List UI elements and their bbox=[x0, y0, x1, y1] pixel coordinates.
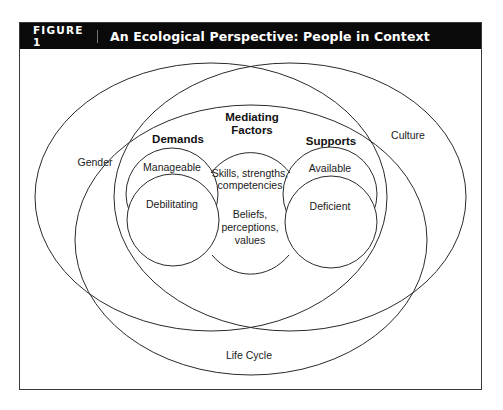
ecological-diagram: Gender Culture Life Cycle Demands Mediat… bbox=[0, 0, 503, 410]
beliefs-label-line1: Beliefs, bbox=[233, 208, 267, 220]
debilitating-label: Debilitating bbox=[146, 198, 198, 210]
mediating-heading-line1: Mediating bbox=[225, 111, 279, 123]
demands-heading: Demands bbox=[152, 133, 204, 145]
available-label: Available bbox=[309, 162, 352, 174]
manageable-label: Manageable bbox=[143, 161, 201, 173]
skills-label-line2: competencies bbox=[218, 179, 283, 191]
mediating-heading-line2: Factors bbox=[231, 124, 273, 136]
debilitating-circle bbox=[127, 174, 219, 266]
culture-label: Culture bbox=[391, 129, 425, 141]
beliefs-label-line2: perceptions, bbox=[221, 221, 278, 233]
skills-label-line1: Skills, strengths, bbox=[212, 167, 288, 179]
deficient-circle bbox=[285, 176, 377, 268]
life-cycle-label: Life Cycle bbox=[226, 349, 272, 361]
mediating-factors-ellipse-bottom bbox=[212, 255, 289, 274]
deficient-label: Deficient bbox=[310, 200, 351, 212]
beliefs-label-line3: values bbox=[235, 234, 265, 246]
gender-label: Gender bbox=[77, 156, 113, 168]
supports-heading: Supports bbox=[306, 135, 356, 147]
